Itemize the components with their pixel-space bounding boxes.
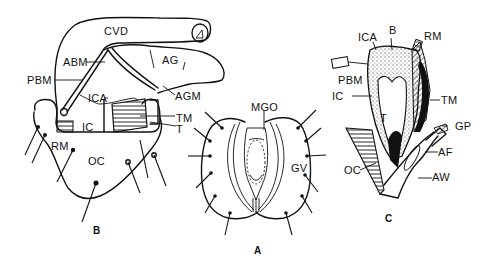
label-t: T	[176, 123, 183, 135]
label-gv: GV	[291, 162, 308, 174]
label-c-pbm: PBM	[338, 74, 363, 86]
label-mgo: MGO	[251, 101, 278, 113]
pins-b	[25, 125, 166, 222]
label-oc: OC	[88, 155, 105, 167]
panel-c: ICA B RM PBM IC TM T GP AF OC AW C	[331, 24, 471, 224]
label-c-tm: TM	[441, 94, 457, 106]
label-cvd: CVD	[104, 25, 128, 37]
label-c-b: B	[389, 24, 397, 36]
label-c-rm: RM	[424, 30, 442, 42]
label-agm: AGM	[175, 90, 201, 102]
label-c-ica: ICA	[358, 31, 378, 43]
anatomical-figure: CVD ABM AG PBM ICA AGM IC TM T RM OC B	[0, 0, 492, 264]
label-c-t: T	[380, 112, 387, 124]
label-c-af: AF	[438, 146, 453, 158]
label-c-oc: OC	[344, 164, 361, 176]
caption-a: A	[254, 245, 261, 256]
label-pbm: PBM	[27, 74, 52, 86]
label-rm: RM	[51, 140, 69, 152]
caption-c: C	[385, 213, 392, 224]
panel-a: MGO GV A	[188, 101, 326, 256]
label-ag: AG	[162, 54, 179, 66]
label-abm: ABM	[63, 56, 88, 68]
label-c-gp: GP	[455, 120, 472, 132]
panel-b: CVD ABM AG PBM ICA AGM IC TM T RM OC B	[25, 17, 224, 236]
label-ic: IC	[82, 121, 94, 133]
label-ica: ICA	[88, 92, 108, 104]
label-c-ic: IC	[332, 90, 344, 102]
label-c-aw: AW	[432, 171, 450, 183]
caption-b: B	[93, 225, 100, 236]
